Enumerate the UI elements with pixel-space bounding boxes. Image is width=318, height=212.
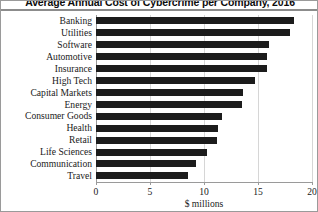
bar-row [96, 63, 312, 75]
bar-row [96, 15, 312, 27]
category-label: Software [4, 39, 96, 51]
bar [96, 101, 242, 108]
bar [96, 77, 255, 84]
bar [96, 41, 269, 48]
bar-row [96, 51, 312, 63]
x-tick-mark [150, 182, 151, 185]
x-tick-label: 20 [297, 186, 318, 198]
bar-row [96, 110, 312, 122]
bar [96, 17, 294, 24]
category-label: Insurance [4, 63, 96, 75]
x-tick-mark [96, 182, 97, 185]
category-label: High Tech [4, 75, 96, 87]
category-label: Banking [4, 15, 96, 27]
bar-row [96, 27, 312, 39]
category-label: Retail [4, 134, 96, 146]
x-tick-label: 15 [243, 186, 273, 198]
bar [96, 53, 267, 60]
category-label: Automotive [4, 51, 96, 63]
y-axis-category-labels: BankingUtilitiesSoftwareAutomotiveInsura… [1, 15, 96, 182]
category-label: Consumer Goods [4, 110, 96, 122]
bar-row [96, 122, 312, 134]
category-label: Capital Markets [4, 87, 96, 99]
x-tick-label: 10 [189, 186, 219, 198]
gridline-20 [312, 15, 313, 182]
title-divider [1, 9, 318, 11]
x-tick-label: 0 [81, 186, 111, 198]
chart-figure: Average Annual Cost of Cybercrime per Co… [0, 0, 318, 212]
bar [96, 160, 196, 167]
x-tick-mark [312, 182, 313, 185]
bar-row [96, 170, 312, 182]
bar [96, 125, 218, 132]
bar [96, 113, 222, 120]
plot-area [96, 15, 312, 182]
category-label: Energy [4, 99, 96, 111]
bar [96, 65, 267, 72]
bar-row [96, 75, 312, 87]
bar-row [96, 87, 312, 99]
bar-row [96, 134, 312, 146]
category-label: Communication [4, 158, 96, 170]
bar [96, 29, 290, 36]
category-label: Health [4, 122, 96, 134]
chart-title: Average Annual Cost of Cybercrime per Co… [1, 0, 318, 8]
bar [96, 137, 217, 144]
bar-row [96, 99, 312, 111]
bar-row [96, 146, 312, 158]
bar [96, 172, 188, 179]
category-label: Utilities [4, 27, 96, 39]
x-tick-mark [204, 182, 205, 185]
x-tick-mark [258, 182, 259, 185]
category-label: Life Sciences [4, 146, 96, 158]
x-tick-label: 5 [135, 186, 165, 198]
x-axis-title: $ millions [96, 198, 312, 210]
bar [96, 89, 243, 96]
bar-row [96, 39, 312, 51]
bar [96, 149, 207, 156]
category-label: Travel [4, 170, 96, 182]
bar-row [96, 158, 312, 170]
